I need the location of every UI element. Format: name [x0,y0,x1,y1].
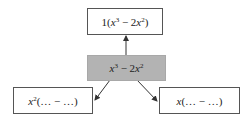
center-box: x3 − 2x2 [87,55,166,81]
bottom-left-expression: x2(… − …) [28,95,77,107]
center-expression: x3 − 2x2 [110,62,144,74]
top-expression: 1(x3 − 2x2) [102,16,149,28]
arrow-to-bottom-right [137,80,157,101]
bottom-right-expression: x(… − …) [177,95,223,107]
top-box: 1(x3 − 2x2) [87,8,163,35]
bottom-left-box: x2(… − …) [13,87,93,114]
arrow-to-bottom-left [95,80,110,100]
bottom-right-box: x(… − …) [159,87,240,114]
diagram-canvas: 1(x3 − 2x2) x3 − 2x2 x2(… − …) x(… − …) [0,0,247,123]
